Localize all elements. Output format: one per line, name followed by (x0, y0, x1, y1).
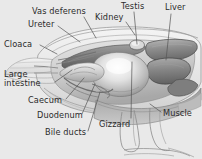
testis-organ (130, 40, 146, 50)
label-vas-deferens: Vas deferens (32, 7, 86, 16)
label-large-intestine: Large intestine (4, 70, 41, 87)
label-ureter: Ureter (28, 20, 54, 29)
label-caecum: Caecum (28, 96, 62, 105)
label-liver: Liver (165, 3, 186, 12)
label-testis: Testis (121, 2, 144, 11)
anatomy-figure: Vas deferensUreterCloacaLarge intestineC… (0, 0, 202, 159)
label-cloaca: Cloaca (4, 40, 32, 49)
label-kidney: Kidney (95, 13, 124, 22)
label-bile-ducts: Bile ducts (45, 128, 86, 137)
label-gizzard: Gizzard (99, 120, 130, 129)
label-duodenum: Duodenum (37, 111, 83, 120)
label-muscle: Muscle (163, 109, 192, 118)
